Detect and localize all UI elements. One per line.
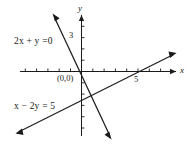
equation-label-line-2: x − 2y = 5: [14, 101, 55, 111]
equation-label-line-1: 2x + y =0: [14, 36, 53, 46]
x-tick-label-5: 5: [134, 74, 138, 84]
y-axis-name-label: y: [78, 3, 82, 13]
y-axis-arrow-icon: [79, 15, 84, 21]
line-x-minus-2y: [20, 55, 173, 132]
origin-point-label: (0,0): [57, 73, 73, 83]
line-2x-plus-y-arrow-up-icon: [53, 14, 60, 22]
x-axis-name-label: x: [180, 65, 184, 75]
coordinate-plane: [0, 0, 191, 151]
line-2x-plus-y-arrow-down-icon: [105, 131, 112, 139]
y-tick-label-3: 3: [69, 30, 73, 40]
x-axis-arrow-icon: [170, 69, 176, 74]
graph-figure: 2x + y =0 x − 2y = 5 (0,0) 5 3 x y: [0, 0, 191, 151]
